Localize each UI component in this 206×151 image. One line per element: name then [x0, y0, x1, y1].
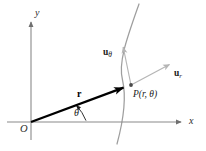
u-r-label-subscript: r — [179, 72, 182, 80]
u-r-vector — [131, 65, 170, 86]
y-axis-label: y — [35, 8, 39, 18]
u-theta-vector — [123, 47, 131, 85]
u-theta-label: uθ — [103, 48, 112, 59]
origin-label: O — [20, 124, 28, 135]
x-axis-label: x — [189, 116, 193, 126]
position-vector-label: r — [77, 89, 81, 99]
angle-theta-label: θ — [74, 108, 79, 118]
point-p-label: P(r, θ) — [133, 90, 157, 100]
u-r-label: ur — [174, 69, 182, 80]
point-p-marker — [129, 83, 133, 87]
u-theta-label-subscript: θ — [108, 50, 112, 59]
coordinate-curve — [117, 4, 139, 144]
polar-coordinates-figure: y x O θ r P(r, θ) uθ ur — [0, 0, 206, 151]
